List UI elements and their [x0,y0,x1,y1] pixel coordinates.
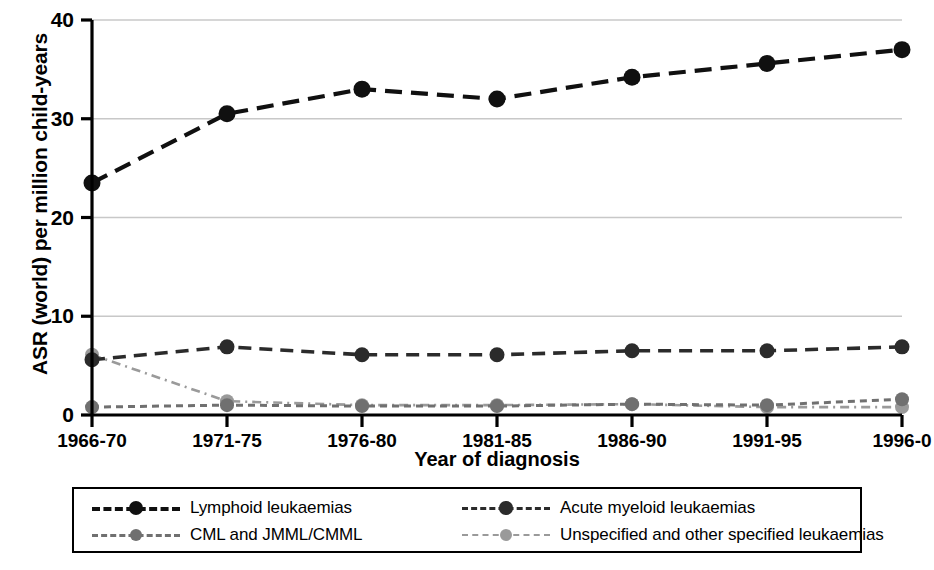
chart-figure: ASR (world) per million child-years Year… [0,0,934,570]
chart-legend: Lymphoid leukaemiasAcute myeloid leukaem… [72,487,862,553]
data-point [625,397,639,411]
legend-label: CML and JMML/CMML [180,525,362,545]
legend-line-swatch [462,497,550,519]
data-point [490,347,505,362]
series-3 [85,392,909,414]
data-point [624,69,641,86]
data-point [354,81,371,98]
data-point [220,339,235,354]
data-point [355,399,369,413]
data-point [760,343,775,358]
data-point [894,41,911,58]
series-2 [85,339,910,367]
axes [81,20,902,427]
data-point [625,343,640,358]
legend-label: Unspecified and other specified leukaemi… [550,525,884,545]
legend-marker-icon [129,501,144,516]
legend-marker-icon [500,529,512,541]
data-point [489,91,506,108]
data-point [220,398,234,412]
legend-item[interactable]: CML and JMML/CMML [92,522,362,548]
data-point [219,105,236,122]
legend-item[interactable]: Acute myeloid leukaemias [462,495,755,521]
data-point [759,55,776,72]
legend-marker-icon [130,529,142,541]
legend-marker-icon [499,501,512,514]
legend-item[interactable]: Lymphoid leukaemias [92,495,352,521]
series-line [92,50,902,183]
data-point [895,339,910,354]
legend-line-swatch [462,524,550,546]
data-point [760,398,774,412]
data-point [355,347,370,362]
legend-item[interactable]: Unspecified and other specified leukaemi… [462,522,884,548]
legend-line-swatch [92,497,180,519]
legend-label: Lymphoid leukaemias [180,498,352,518]
legend-line-swatch [92,524,180,546]
plot-canvas [0,0,934,570]
data-point [490,399,504,413]
legend-label: Acute myeloid leukaemias [550,498,755,518]
series-1 [84,41,911,191]
data-point [895,392,909,406]
